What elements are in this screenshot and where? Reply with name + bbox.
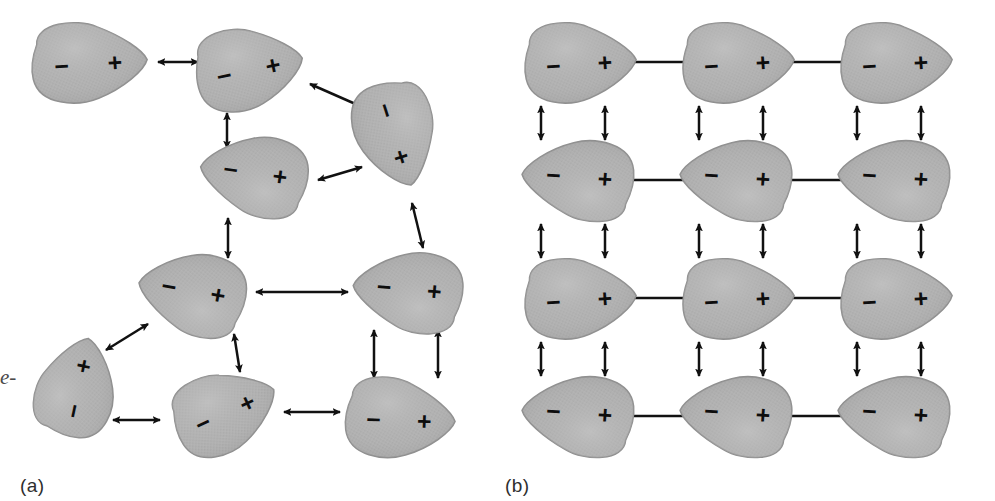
dipole-b-r0-c0: −+ [522, 18, 639, 106]
arrow-a-5 [412, 203, 423, 248]
dipole-a1-left-sign: − [53, 52, 69, 80]
dipole-b-r3-c0-right-sign: − [545, 398, 561, 426]
dipole-a9-right-sign: + [416, 408, 431, 435]
dipole-b-r1-c2-left-sign: + [913, 165, 929, 193]
dipole-b-r1-c1-left-sign: + [755, 165, 771, 193]
dipole-a6: +− [350, 247, 466, 337]
dipole-b-r1-c1-right-sign: − [703, 162, 719, 190]
dipole-a4: +− [195, 129, 313, 224]
dipole-b-r1-c0-left-sign: + [597, 165, 613, 193]
panel-a-disordered: −+−+−++−+−+−−+−+−+ (a) [0, 0, 497, 501]
dipole-b-r2-c0: −+ [522, 254, 639, 342]
dipole-b-r0-c2: −+ [838, 18, 955, 106]
dipole-b-r2-c0-right-sign: + [597, 285, 613, 313]
panel-a-canvas: −+−+−++−+−+−−+−+−+ [0, 0, 497, 501]
dipole-b-r1-c1: +− [677, 136, 794, 224]
dipole-b-r1-c0: +− [519, 136, 636, 224]
dipole-b-r2-c0-left-sign: − [545, 288, 561, 316]
dipole-b-r2-c2-left-sign: − [861, 288, 877, 316]
dipole-b-r3-c2: +− [835, 372, 952, 460]
dipole-b-r2-c1-right-sign: + [755, 285, 771, 313]
arrow-a-8 [106, 324, 148, 350]
dipole-b-r3-c0-left-sign: + [597, 401, 613, 429]
dipole-ordering-figure: e- −+−+−++−+−+−−+−+−+ (a) −+−+−++−+−+−−+… [0, 0, 995, 501]
dipole-b-r0-c0-right-sign: + [597, 49, 613, 77]
dipole-a6-right-sign: − [376, 273, 393, 301]
dipole-b-r0-c1-left-sign: − [703, 52, 719, 80]
dipole-a2: −+ [188, 16, 310, 119]
dipole-a9: −+ [344, 376, 456, 460]
dipole-a1-right-sign: + [107, 49, 123, 77]
dipole-b-r3-c1: +− [677, 372, 794, 460]
dipole-b-r2-c1-left-sign: − [703, 288, 719, 316]
dipole-b-r2-c2-right-sign: + [913, 285, 929, 313]
panel-a-label: (a) [20, 475, 44, 497]
dipole-b-r2-c2: −+ [838, 254, 955, 342]
dipole-b-r1-c2-right-sign: − [861, 162, 877, 190]
dipole-a8: −+ [160, 352, 290, 469]
dipole-b-r0-c1: −+ [680, 18, 797, 106]
arrow-a-4 [318, 167, 362, 180]
dipole-b-r0-c2-left-sign: − [861, 52, 877, 80]
dipole-a3: −+ [342, 71, 451, 196]
panel-b-ordered: −+−+−++−+−+−−+−+−++−+−+− (b) [497, 0, 995, 501]
dipole-a1: −+ [29, 18, 150, 106]
dipole-a5: +− [132, 244, 252, 344]
panel-b-canvas: −+−+−++−+−+−−+−+−++−+−+− [497, 0, 995, 501]
dipole-b-r3-c2-left-sign: + [913, 401, 929, 429]
panel-b-label: (b) [505, 475, 529, 497]
dipole-b-r3-c1-left-sign: + [755, 401, 771, 429]
dipole-b-r3-c2-right-sign: − [861, 398, 877, 426]
dipole-b-r0-c2-right-sign: + [913, 49, 929, 77]
dipole-b-r2-c1: −+ [680, 254, 797, 342]
dipole-b-r1-c0-right-sign: − [545, 162, 561, 190]
dipole-b-r0-c1-right-sign: + [755, 49, 771, 77]
dipole-b-r1-c2: +− [835, 136, 952, 224]
dipole-b-r3-c1-right-sign: − [703, 398, 719, 426]
dipole-a6-left-sign: + [426, 278, 443, 306]
arrow-a-9 [234, 334, 240, 372]
dipole-b-r0-c0-left-sign: − [545, 52, 561, 80]
dipole-a9-left-sign: − [366, 406, 381, 433]
arrow-a-2 [310, 84, 360, 106]
dipole-b-r3-c0: +− [519, 372, 636, 460]
